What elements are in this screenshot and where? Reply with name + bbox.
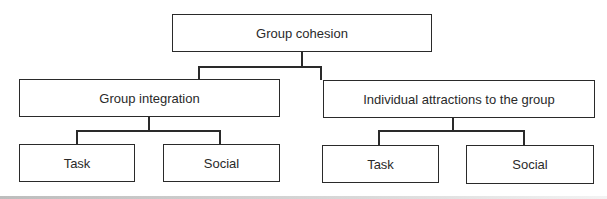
node-gi-social: Social xyxy=(163,144,280,182)
node-label: Task xyxy=(64,156,91,171)
connector-line xyxy=(76,130,221,132)
node-label: Group integration xyxy=(99,91,199,106)
connector-line xyxy=(219,130,221,144)
connector-line xyxy=(320,66,322,80)
node-individual-attractions: Individual attractions to the group xyxy=(323,80,595,118)
node-group-integration: Group integration xyxy=(19,79,280,117)
connector-line xyxy=(523,130,525,145)
connector-line xyxy=(148,117,150,131)
connector-line xyxy=(301,52,303,67)
connector-line xyxy=(198,66,322,68)
node-iag-social: Social xyxy=(466,145,594,184)
node-label: Social xyxy=(204,156,239,171)
connector-line xyxy=(378,130,380,145)
connector-line xyxy=(378,130,525,132)
connector-line xyxy=(76,130,78,144)
node-iag-task: Task xyxy=(322,145,439,183)
node-gi-task: Task xyxy=(19,144,135,182)
bottom-divider xyxy=(0,196,607,199)
node-label: Task xyxy=(367,157,394,172)
node-group-cohesion: Group cohesion xyxy=(172,14,432,52)
node-label: Social xyxy=(512,157,547,172)
node-label: Individual attractions to the group xyxy=(363,92,555,107)
node-label: Group cohesion xyxy=(256,26,348,41)
connector-line xyxy=(198,66,200,79)
